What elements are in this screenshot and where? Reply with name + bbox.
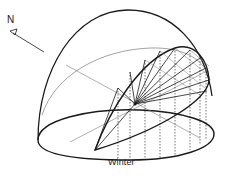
dome-outline <box>38 10 212 140</box>
observer-point <box>133 102 136 105</box>
meridian-arc <box>42 48 210 115</box>
figure-caption: Winter <box>108 157 135 167</box>
sun-rays <box>95 48 209 150</box>
axis-line-north <box>66 65 200 138</box>
sun-path-diagram <box>0 0 227 177</box>
north-label: N <box>7 14 14 25</box>
north-arrow-icon <box>10 29 17 35</box>
horizon-ellipse <box>38 110 214 160</box>
north-arrow-line <box>13 33 44 52</box>
axis-line-east-west <box>70 72 205 142</box>
